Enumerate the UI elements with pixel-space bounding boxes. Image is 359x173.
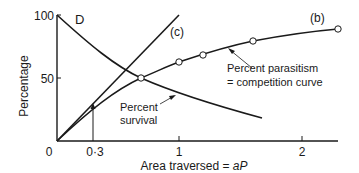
chart-canvas: 100 50 0 0·3 1 2 Percentage Area travers… [0, 0, 359, 173]
y-axis-label: Percentage [17, 55, 31, 117]
marker-point [335, 26, 341, 32]
annotation-survival-line2: survival [120, 114, 157, 126]
marker-point [250, 38, 256, 44]
curve-label-c: (c) [170, 25, 184, 39]
x-axis-label: Area traversed = aP [140, 159, 247, 173]
curve-label-b: (b) [310, 11, 325, 25]
x-tick-label-0: 0 [46, 145, 53, 159]
x-tick-label-1: 1 [176, 145, 183, 159]
annotation-parasitism-line2: = competition curve [227, 76, 323, 88]
marker-point [176, 59, 182, 65]
marker-point [138, 75, 144, 81]
pointer-survival-head [169, 95, 176, 100]
annotation-survival-line1: Percent [120, 101, 158, 113]
x-axis-label-prefix: Area traversed = [140, 159, 232, 173]
curve-label-d: D [75, 12, 84, 27]
x-axis-label-var: aP [233, 159, 248, 173]
y-tick-label-50: 50 [41, 72, 55, 86]
annotation-parasitism-line1: Percent parasitism [227, 62, 318, 74]
x-tick-label-2: 2 [299, 145, 306, 159]
marker-point [200, 52, 206, 58]
curve-c-linear [57, 15, 179, 141]
x-tick-label-0-3: 0·3 [86, 145, 104, 159]
y-tick-label-100: 100 [34, 9, 54, 23]
